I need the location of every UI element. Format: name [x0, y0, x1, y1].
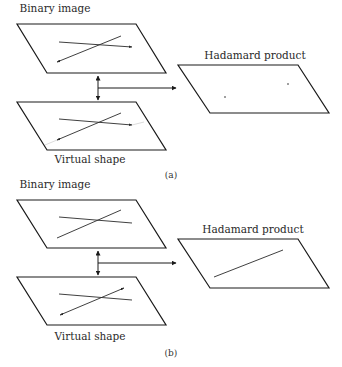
- hadamard-diagram: Binary image Virtual shape Hadamard prod…: [0, 0, 342, 367]
- hadamard-product-label-b: Hadamard product: [202, 223, 304, 235]
- hadamard-product-plane-b: [178, 239, 329, 288]
- virtual-shape-plane-b: [17, 277, 166, 325]
- binary-image-plane-b: [17, 200, 166, 248]
- connector-b: [98, 251, 176, 275]
- panel-b: Binary image Virtual shape Hadamard prod…: [17, 178, 329, 358]
- connector-a: [98, 76, 176, 100]
- virtual-shape-label-b: Virtual shape: [53, 330, 125, 342]
- virtual-shape-label-a: Virtual shape: [53, 153, 125, 165]
- binary-image-plane-a: [17, 24, 166, 73]
- caption-a: (a): [165, 170, 177, 180]
- virtual-shape-plane-a: [17, 102, 166, 150]
- binary-image-label-b: Binary image: [20, 178, 91, 190]
- hadamard-product-label-a: Hadamard product: [204, 49, 306, 61]
- hadamard-product-plane-a: [178, 65, 329, 113]
- caption-b: (b): [165, 348, 178, 358]
- binary-image-label-a: Binary image: [20, 2, 91, 14]
- panel-a: Binary image Virtual shape Hadamard prod…: [17, 2, 329, 180]
